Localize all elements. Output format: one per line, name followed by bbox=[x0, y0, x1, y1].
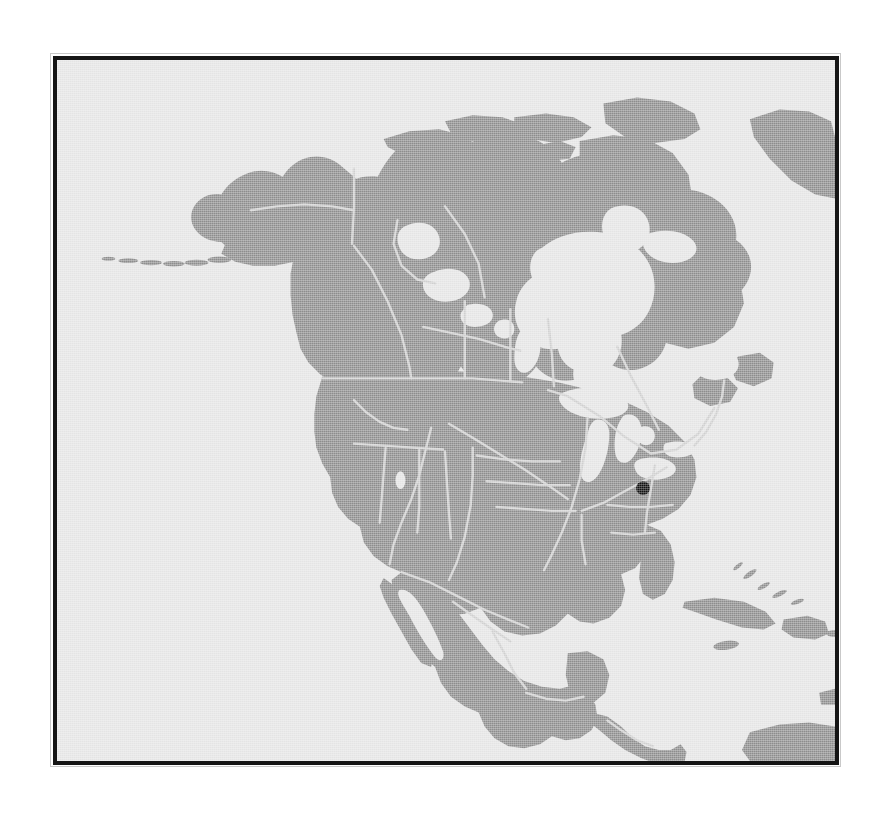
map-figure bbox=[0, 0, 891, 818]
land-aleutian-5 bbox=[185, 260, 209, 266]
map-frame bbox=[53, 56, 839, 765]
land-aleutian-1 bbox=[102, 257, 116, 261]
land-aleutian-4 bbox=[163, 261, 185, 267]
map-canvas[interactable] bbox=[57, 60, 835, 761]
land-aleutian-6 bbox=[207, 257, 231, 263]
water-great-bear-lake bbox=[397, 223, 439, 259]
water-great-slave-lake bbox=[423, 269, 470, 302]
occurrence-point-marker[interactable] bbox=[636, 481, 650, 495]
water-great-salt-lake bbox=[396, 471, 406, 489]
land-aleutian-2 bbox=[118, 258, 138, 263]
real-map-group bbox=[57, 60, 835, 761]
land-aleutian-3 bbox=[140, 260, 162, 265]
